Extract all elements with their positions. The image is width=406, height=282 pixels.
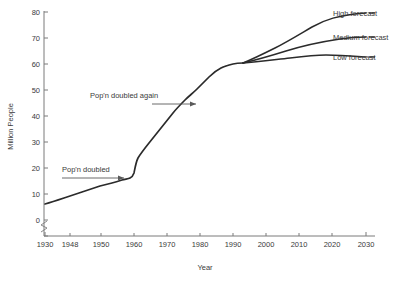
population-forecast-chart: 80 70 60 50 40 30 20 10 0 1930 1948 1950… <box>0 0 406 282</box>
x-tick-label-2000: 2000 <box>249 240 283 249</box>
y-tick-label-80: 80 <box>16 8 40 17</box>
x-tick-label-1980: 1980 <box>183 240 217 249</box>
y-tick-label-70: 70 <box>16 34 40 43</box>
series-label-high-forecast: High forecast <box>333 9 377 18</box>
y-tick-marks <box>44 12 48 236</box>
y-axis-break-marker <box>41 221 47 232</box>
x-tick-marks <box>45 232 366 236</box>
y-tick-label-20: 20 <box>16 164 40 173</box>
x-tick-label-1990: 1990 <box>216 240 250 249</box>
series-label-low-forecast: Low forecast <box>333 53 376 62</box>
y-tick-label-0: 0 <box>16 216 40 225</box>
y-tick-label-40: 40 <box>16 112 40 121</box>
annotation-popn-doubled: Pop'n doubled <box>62 165 110 174</box>
y-axis-title-wrap: Million People <box>2 96 16 166</box>
y-tick-label-50: 50 <box>16 86 40 95</box>
series-label-medium-forecast: Medium forecast <box>333 33 388 42</box>
annotation-popn-doubled-again: Pop'n doubled again <box>90 91 158 100</box>
y-tick-label-60: 60 <box>16 60 40 69</box>
y-axis-title: Million People <box>6 95 15 159</box>
y-tick-label-10: 10 <box>16 190 40 199</box>
y-tick-label-30: 30 <box>16 138 40 147</box>
x-tick-label-2030: 2030 <box>349 240 383 249</box>
x-tick-label-1950: 1950 <box>84 240 118 249</box>
x-tick-label-1948: 1948 <box>53 240 87 249</box>
x-tick-label-1970: 1970 <box>150 240 184 249</box>
series-line-historical <box>45 63 243 204</box>
x-tick-label-1960: 1960 <box>117 240 151 249</box>
x-tick-label-2010: 2010 <box>282 240 316 249</box>
x-axis-title: Year <box>185 263 225 272</box>
x-tick-label-2020: 2020 <box>315 240 349 249</box>
